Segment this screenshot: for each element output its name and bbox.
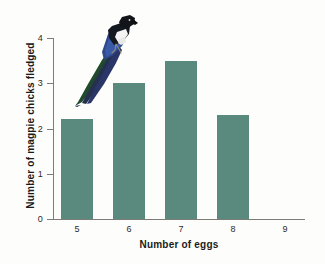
x-tick-label-9: 9 — [273, 224, 297, 234]
y-tick-0 — [47, 219, 53, 220]
bar-eggs-7 — [165, 61, 197, 219]
bar-chart-figure: 0 1 2 3 4 5 6 7 8 9 Number — [0, 0, 325, 264]
x-tick-label-8: 8 — [221, 224, 245, 234]
plot-area — [53, 38, 305, 219]
y-axis-title: Number of magpie chicks fledged — [25, 26, 36, 226]
x-tick-label-5: 5 — [65, 224, 89, 234]
x-axis-line — [53, 219, 305, 220]
x-axis-title: Number of eggs — [53, 239, 305, 250]
x-tick-label-6: 6 — [117, 224, 141, 234]
x-tick-label-7: 7 — [169, 224, 193, 234]
bar-eggs-6 — [113, 83, 145, 219]
bar-eggs-5 — [61, 119, 93, 219]
bar-eggs-8 — [217, 115, 249, 219]
